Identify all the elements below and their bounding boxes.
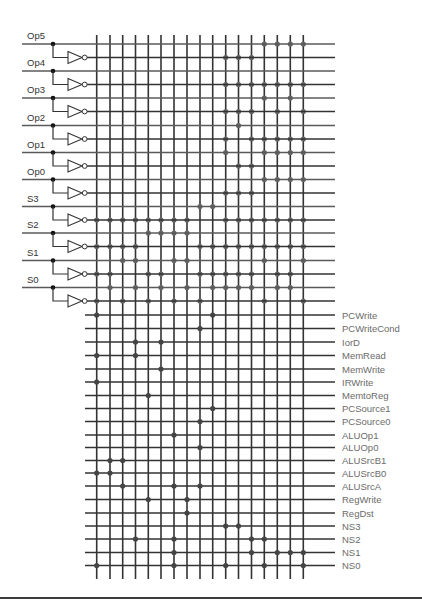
inverter-icon <box>68 214 82 226</box>
or-connection-dot <box>107 470 112 475</box>
output-label: IRWrite <box>342 377 373 388</box>
input-section: Op5Op4Op3Op2Op1Op0S3S2S1S0 <box>22 30 335 307</box>
branch-wire <box>53 71 68 85</box>
branch-wire <box>53 261 68 275</box>
inverter-bubble-icon <box>82 272 87 277</box>
input-label: Op1 <box>27 139 45 150</box>
input-label: Op3 <box>27 84 45 95</box>
or-connection-dot <box>94 379 99 384</box>
or-connection-dot <box>210 406 215 411</box>
inverter-icon <box>68 106 82 118</box>
input-label: Op0 <box>27 166 45 177</box>
or-connection-dot <box>197 326 202 331</box>
output-label: ALUSrcB1 <box>342 455 386 466</box>
or-connection-dot <box>262 536 267 541</box>
or-connection-dot <box>120 483 125 488</box>
or-connection-dot <box>133 339 138 344</box>
output-label: NS1 <box>342 547 360 558</box>
branch-wire <box>53 98 68 112</box>
or-connection-dot <box>197 483 202 488</box>
output-label: NS2 <box>342 534 360 545</box>
output-label: ALUSrcB0 <box>342 468 386 479</box>
output-label: PCSource1 <box>342 403 391 414</box>
or-connection-dot <box>133 536 138 541</box>
inverter-bubble-icon <box>82 244 87 249</box>
inverter-bubble-icon <box>82 82 87 87</box>
or-connection-dot <box>197 445 202 450</box>
inverter-bubble-icon <box>82 191 87 196</box>
or-connection-dot <box>249 536 254 541</box>
or-connection-dot <box>223 563 228 568</box>
or-connection-dot <box>184 497 189 502</box>
or-connection-dot <box>171 432 176 437</box>
inverter-icon <box>68 133 82 145</box>
output-label: IorD <box>342 337 360 348</box>
product-term-columns <box>97 35 304 579</box>
inverter-icon <box>68 241 82 253</box>
inverter-bubble-icon <box>82 55 87 60</box>
output-label: RegDst <box>342 508 374 519</box>
or-connection-dot <box>120 458 125 463</box>
or-connection-dot <box>94 353 99 358</box>
or-connection-dot <box>146 393 151 398</box>
or-connection-dot <box>301 563 306 568</box>
output-label: ALUSrcA <box>342 481 382 492</box>
pla-diagram: PCWritePCWriteCondIorDMemReadMemWriteIRW… <box>0 0 422 602</box>
branch-wire <box>53 180 68 194</box>
inverter-bubble-icon <box>82 164 87 169</box>
output-label: ALUOp0 <box>342 442 378 453</box>
or-connection-dot <box>249 550 254 555</box>
inverter-icon <box>68 295 82 307</box>
or-connection-dot <box>197 419 202 424</box>
or-connection-dot <box>158 339 163 344</box>
or-connection-dot <box>171 563 176 568</box>
output-label: RegWrite <box>342 494 381 505</box>
or-connection-dot <box>223 523 228 528</box>
branch-wire <box>53 153 68 167</box>
output-label: NS0 <box>342 560 360 571</box>
output-label: MemWrite <box>342 364 385 375</box>
output-label: ALUOp1 <box>342 430 378 441</box>
or-connection-dot <box>171 536 176 541</box>
branch-wire <box>53 44 68 58</box>
output-label: MemRead <box>342 350 386 361</box>
or-connection-dot <box>184 510 189 515</box>
input-label: S0 <box>27 274 39 285</box>
inverter-icon <box>68 268 82 280</box>
or-connection-dot <box>94 312 99 317</box>
or-connection-dot <box>236 523 241 528</box>
inverter-icon <box>68 52 82 64</box>
input-label: S1 <box>27 247 39 258</box>
or-plane: PCWritePCWriteCondIorDMemReadMemWriteIRW… <box>85 310 400 572</box>
output-label: MemtoReg <box>342 390 388 401</box>
input-label: Op4 <box>27 57 45 68</box>
branch-wire <box>53 233 68 247</box>
output-label: PCWrite <box>342 310 377 321</box>
inverter-bubble-icon <box>82 299 87 304</box>
branch-wire <box>53 207 68 221</box>
or-connection-dot <box>158 366 163 371</box>
output-label: PCSource0 <box>342 416 391 427</box>
output-label: PCWriteCond <box>342 323 400 334</box>
or-connection-dot <box>171 483 176 488</box>
input-label: S3 <box>27 193 39 204</box>
bottom-divider <box>0 597 422 599</box>
or-connection-dot <box>210 312 215 317</box>
inverter-icon <box>68 79 82 91</box>
inverter-icon <box>68 187 82 199</box>
or-connection-dot <box>288 550 293 555</box>
or-connection-dot <box>171 550 176 555</box>
inverter-bubble-icon <box>82 137 87 142</box>
or-connection-dot <box>146 497 151 502</box>
or-connection-dot <box>301 550 306 555</box>
branch-wire <box>53 288 68 302</box>
output-label: NS3 <box>342 521 360 532</box>
or-connection-dot <box>262 563 267 568</box>
inverter-bubble-icon <box>82 109 87 114</box>
input-label: Op5 <box>27 30 45 41</box>
input-label: S2 <box>27 219 39 230</box>
or-connection-dot <box>94 563 99 568</box>
or-connection-dot <box>107 458 112 463</box>
or-connection-dot <box>275 550 280 555</box>
inverter-icon <box>68 160 82 172</box>
